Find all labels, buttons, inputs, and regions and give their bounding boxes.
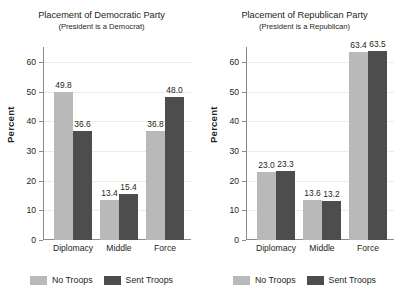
bar-value-label: 15.4 (120, 182, 136, 192)
y-tick-50 (242, 92, 246, 93)
bar-value-label: 36.6 (74, 119, 90, 129)
y-tick-label-10: 10 (229, 205, 239, 215)
plot-area-democratic: 60 50 40 30 20 10 0 49.8 36.6 Diplomacy … (43, 47, 191, 240)
x-tick-label-diplomacy: Diplomacy (256, 243, 296, 253)
y-tick-label-50: 50 (26, 87, 36, 97)
y-tick-0 (242, 240, 246, 241)
bar-force-no-troops[interactable]: 63.4 (349, 52, 368, 240)
y-axis-label: Percent (5, 106, 16, 143)
bar-middle-sent-troops[interactable]: 13.2 (322, 201, 341, 240)
bar-value-label: 63.5 (369, 39, 385, 49)
bar-group-force: 36.8 48.0 (145, 47, 185, 240)
bar-diplomacy-sent-troops[interactable]: 23.3 (276, 171, 295, 240)
legend-swatch-icon (307, 276, 324, 285)
panel-title: Placement of Republican Party (203, 9, 406, 21)
x-tick-label-force: Force (357, 243, 379, 253)
legend-item-sent-troops[interactable]: Sent Troops (307, 275, 376, 285)
legend-label: Sent Troops (329, 275, 376, 285)
bar-middle-no-troops[interactable]: 13.4 (100, 200, 119, 240)
y-tick-30 (39, 151, 43, 152)
panel-subtitle: (President is a Republican) (203, 21, 406, 32)
bar-force-sent-troops[interactable]: 63.5 (368, 51, 387, 240)
y-tick-label-40: 40 (229, 116, 239, 126)
y-tick-label-20: 20 (26, 176, 36, 186)
legend-democratic: No Troops Sent Troops (0, 275, 203, 285)
bar-value-label: 48.0 (166, 85, 182, 95)
y-tick-label-40: 40 (26, 116, 36, 126)
bar-value-label: 63.4 (350, 40, 366, 50)
bar-force-no-troops[interactable]: 36.8 (146, 131, 165, 240)
panel-subtitle: (President is a Democrat) (0, 21, 203, 32)
bar-value-label: 36.8 (147, 119, 163, 129)
y-tick-10 (242, 210, 246, 211)
bar-group-middle: 13.4 15.4 (99, 47, 139, 240)
y-tick-label-30: 30 (26, 146, 36, 156)
y-tick-label-20: 20 (229, 176, 239, 186)
panel-title: Placement of Democratic Party (0, 9, 203, 21)
y-tick-0 (39, 240, 43, 241)
bar-group-force: 63.4 63.5 (348, 47, 388, 240)
bar-diplomacy-no-troops[interactable]: 23.0 (257, 172, 276, 240)
bar-diplomacy-no-troops[interactable]: 49.8 (54, 92, 73, 240)
y-tick-label-60: 60 (26, 57, 36, 67)
y-tick-label-10: 10 (26, 205, 36, 215)
legend-swatch-icon (30, 276, 47, 285)
y-tick-label-50: 50 (229, 87, 239, 97)
x-tick-label-middle: Middle (309, 243, 334, 253)
plot-area-republican: 60 50 40 30 20 10 0 23.0 23.3 Diplomacy … (246, 47, 394, 240)
y-tick-60 (242, 62, 246, 63)
bar-diplomacy-sent-troops[interactable]: 36.6 (73, 131, 92, 240)
y-tick-10 (39, 210, 43, 211)
bar-group-diplomacy: 49.8 36.6 (53, 47, 93, 240)
bar-value-label: 13.4 (101, 188, 117, 198)
bar-value-label: 13.2 (323, 189, 339, 199)
y-tick-20 (242, 181, 246, 182)
y-axis-label: Percent (208, 106, 219, 143)
y-tick-40 (39, 121, 43, 122)
y-tick-50 (39, 92, 43, 93)
y-tick-60 (39, 62, 43, 63)
panel-titles-republican: Placement of Republican Party (President… (203, 9, 406, 32)
y-tick-label-0: 0 (234, 235, 239, 245)
bar-value-label: 49.8 (55, 80, 71, 90)
y-tick-40 (242, 121, 246, 122)
panel-titles-democratic: Placement of Democratic Party (President… (0, 9, 203, 32)
bar-value-label: 13.6 (304, 188, 320, 198)
bar-value-label: 23.3 (277, 159, 293, 169)
bar-group-middle: 13.6 13.2 (302, 47, 342, 240)
x-tick-label-force: Force (154, 243, 176, 253)
chart-panel-republican: Placement of Republican Party (President… (203, 0, 406, 298)
y-tick-label-30: 30 (229, 146, 239, 156)
bar-value-label: 23.0 (258, 160, 274, 170)
legend-label: No Troops (52, 275, 93, 285)
legend-label: Sent Troops (126, 275, 173, 285)
bar-middle-no-troops[interactable]: 13.6 (303, 200, 322, 240)
y-tick-label-0: 0 (31, 235, 36, 245)
legend-item-no-troops[interactable]: No Troops (30, 275, 93, 285)
legend-swatch-icon (233, 276, 250, 285)
legend-swatch-icon (104, 276, 121, 285)
chart-panel-democratic: Placement of Democratic Party (President… (0, 0, 203, 298)
bar-middle-sent-troops[interactable]: 15.4 (119, 194, 138, 240)
legend-label: No Troops (255, 275, 296, 285)
legend-item-no-troops[interactable]: No Troops (233, 275, 296, 285)
legend-item-sent-troops[interactable]: Sent Troops (104, 275, 173, 285)
dual-bar-chart-figure: Placement of Democratic Party (President… (0, 0, 406, 298)
y-tick-label-60: 60 (229, 57, 239, 67)
legend-republican: No Troops Sent Troops (203, 275, 406, 285)
y-tick-30 (242, 151, 246, 152)
x-tick-label-diplomacy: Diplomacy (53, 243, 93, 253)
y-tick-20 (39, 181, 43, 182)
bar-force-sent-troops[interactable]: 48.0 (165, 97, 184, 240)
x-tick-label-middle: Middle (106, 243, 131, 253)
bar-group-diplomacy: 23.0 23.3 (256, 47, 296, 240)
